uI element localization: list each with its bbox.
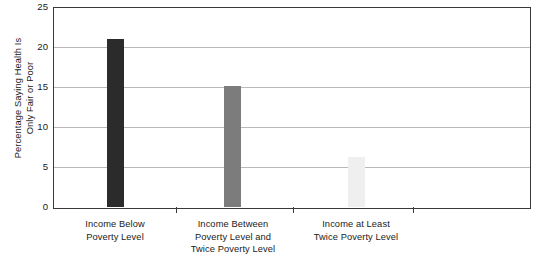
y-tick-label-20: 20 <box>4 42 48 52</box>
x-label-income-below-poverty-level: Income Below Poverty Level <box>55 218 175 243</box>
x-tick-mark-3 <box>413 207 414 213</box>
bar-income-below-poverty-level <box>107 39 124 207</box>
x-label-income-between-poverty-and-twice: Income Between Poverty Level and Twice P… <box>173 218 293 256</box>
y-tick-label-5: 5 <box>4 162 48 172</box>
y-tick-label-10: 10 <box>4 122 48 132</box>
y-tick-label-0: 0 <box>4 202 48 212</box>
x-axis-category-labels: Income Below Poverty Level Income Betwee… <box>0 218 534 260</box>
bar-income-at-least-twice-poverty-level <box>348 157 365 207</box>
bar-income-between-poverty-and-twice <box>224 86 241 207</box>
x-tick-mark-1 <box>176 207 177 213</box>
y-axis-tick-labels: 25 20 15 10 5 0 <box>0 7 48 207</box>
bar-chart-figure: Percentage Saying Health Is Only Fair or… <box>0 0 534 260</box>
y-tick-label-15: 15 <box>4 82 48 92</box>
x-label-income-at-least-twice-poverty-level: Income at Least Twice Poverty Level <box>296 218 416 243</box>
bars-layer <box>53 7 529 207</box>
y-tick-label-25: 25 <box>4 2 48 12</box>
x-tick-mark-2 <box>293 207 294 213</box>
